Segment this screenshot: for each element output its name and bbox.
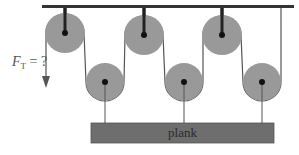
axle-2	[141, 32, 147, 38]
force-label: FT = ?	[12, 54, 47, 70]
axle-6	[259, 79, 265, 85]
axle-1	[62, 30, 68, 36]
axle-4	[102, 79, 108, 85]
axle-5	[181, 79, 187, 85]
axle-3	[219, 32, 225, 38]
ceiling-bar	[42, 5, 294, 8]
force-arrow-icon	[42, 76, 50, 88]
plank-label: plank	[91, 123, 274, 143]
